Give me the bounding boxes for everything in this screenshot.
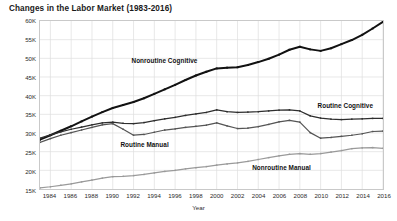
series-annotation: Routine Manual: [120, 140, 168, 147]
series-marker: [185, 79, 187, 81]
series-marker: [289, 49, 291, 51]
series-marker: [60, 134, 61, 135]
series-marker: [237, 128, 238, 129]
series-marker: [351, 134, 352, 135]
series-marker: [309, 132, 310, 133]
series-marker: [185, 168, 186, 169]
series-marker: [143, 174, 144, 175]
series-line: [40, 120, 383, 142]
x-tick-label: 1994: [147, 192, 161, 199]
series-marker: [320, 153, 321, 154]
y-axis-tick-labels: 60K55K50K45K40K35K30K25K20K15K: [0, 20, 36, 190]
x-tick-label: 1988: [84, 192, 98, 199]
series-marker: [320, 137, 321, 138]
series-marker: [289, 154, 290, 155]
series-marker: [341, 136, 342, 137]
labor-market-line-chart: Changes in the Labor Market (1983-2016) …: [0, 0, 397, 221]
series-marker: [153, 93, 155, 95]
x-tick-label: 2006: [273, 192, 287, 199]
series-marker: [247, 127, 248, 128]
series-marker: [361, 147, 362, 148]
series-marker: [299, 46, 301, 48]
series-marker: [102, 124, 103, 125]
series-marker: [91, 116, 93, 118]
series-marker: [70, 129, 71, 130]
series-marker: [112, 121, 113, 122]
series-marker: [226, 163, 227, 164]
series-marker: [372, 28, 374, 30]
series-marker: [112, 107, 114, 109]
series-marker: [143, 122, 144, 123]
series-marker: [268, 58, 270, 60]
series-marker: [185, 127, 186, 128]
series-marker: [351, 118, 352, 119]
series-marker: [289, 120, 290, 121]
series-marker: [216, 109, 217, 110]
y-tick-label: 60K: [25, 17, 36, 24]
series-marker: [382, 130, 383, 131]
series-marker: [309, 115, 310, 116]
series-marker: [70, 125, 72, 127]
series-marker: [133, 123, 134, 124]
series-marker: [226, 111, 227, 112]
y-tick-label: 50K: [25, 54, 36, 61]
series-marker: [174, 128, 175, 129]
series-marker: [289, 109, 290, 110]
series-marker: [330, 151, 331, 152]
series-marker: [40, 142, 41, 143]
series-marker: [112, 176, 113, 177]
x-axis-tick-labels: 1984198619881990199219941996199820002002…: [39, 192, 384, 204]
chart-title: Changes in the Labor Market (1983-2016): [9, 4, 172, 13]
series-marker: [185, 115, 186, 116]
series-marker: [81, 129, 82, 130]
series-marker: [133, 101, 135, 103]
series-marker: [195, 126, 196, 127]
series-marker: [226, 67, 228, 69]
series-annotation: Nonroutine Manual: [252, 163, 311, 170]
series-marker: [112, 123, 113, 124]
series-marker: [351, 39, 353, 41]
series-marker: [164, 88, 166, 90]
x-tick-label: 2014: [356, 192, 370, 199]
series-marker: [237, 66, 239, 68]
series-marker: [382, 21, 383, 23]
x-tick-label: 1984: [43, 192, 57, 199]
x-tick-label: 2012: [335, 192, 349, 199]
x-axis-title: Year: [0, 204, 397, 211]
series-marker: [101, 111, 103, 113]
series-marker: [122, 129, 123, 130]
series-marker: [299, 110, 300, 111]
series-marker: [216, 67, 218, 69]
x-tick-label: 1986: [64, 192, 78, 199]
series-marker: [278, 109, 279, 110]
series-line: [40, 22, 383, 140]
y-tick-label: 30K: [25, 130, 36, 137]
series-marker: [122, 104, 124, 106]
x-tick-label: 1998: [189, 192, 203, 199]
series-marker: [361, 34, 363, 36]
series-marker: [382, 118, 383, 119]
series-marker: [122, 176, 123, 177]
series-marker: [247, 161, 248, 162]
series-marker: [372, 118, 373, 119]
series-marker: [257, 61, 259, 63]
series-marker: [237, 112, 238, 113]
series-marker: [216, 122, 217, 123]
series-marker: [268, 124, 269, 125]
x-tick-label: 2000: [210, 192, 224, 199]
series-line: [40, 148, 383, 188]
series-marker: [143, 97, 145, 99]
series-marker: [361, 118, 362, 119]
series-marker: [206, 124, 207, 125]
series-marker: [258, 111, 259, 112]
series-marker: [91, 179, 92, 180]
series-marker: [81, 181, 82, 182]
series-marker: [247, 111, 248, 112]
series-marker: [91, 124, 92, 125]
y-tick-label: 15K: [25, 187, 36, 194]
series-marker: [309, 48, 311, 50]
series-marker: [268, 157, 269, 158]
series-marker: [102, 177, 103, 178]
series-marker: [154, 172, 155, 173]
series-marker: [174, 84, 176, 86]
